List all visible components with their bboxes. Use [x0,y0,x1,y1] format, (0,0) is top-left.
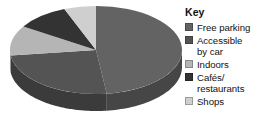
legend-label-free-parking: Free parking [197,22,250,33]
legend: Key Free parking Accessible by car Indoo… [185,0,265,121]
legend-label-accessible-by-car: Accessible by car [197,35,242,57]
legend-swatch-accessible-by-car [185,36,193,44]
pie-chart-area [0,0,185,121]
legend-label-cafes-restaurants: Cafés/ restaurants [197,72,244,94]
legend-item-cafes-restaurants[interactable]: Cafés/ restaurants [185,72,265,94]
legend-label-indoors: Indoors [197,59,229,70]
legend-item-free-parking[interactable]: Free parking [185,22,265,33]
legend-item-shops[interactable]: Shops [185,96,265,107]
pie-chart-figure: Key Free parking Accessible by car Indoo… [0,0,265,121]
legend-swatch-free-parking [185,23,193,31]
legend-swatch-indoors [185,60,193,68]
pie-chart-svg [0,0,185,121]
legend-item-indoors[interactable]: Indoors [185,59,265,70]
legend-label-shops: Shops [197,96,224,107]
pie-slices [10,6,182,94]
legend-swatch-cafes-restaurants [185,73,193,81]
legend-item-accessible-by-car[interactable]: Accessible by car [185,35,265,57]
legend-title: Key [185,6,265,18]
legend-swatch-shops [185,97,193,105]
